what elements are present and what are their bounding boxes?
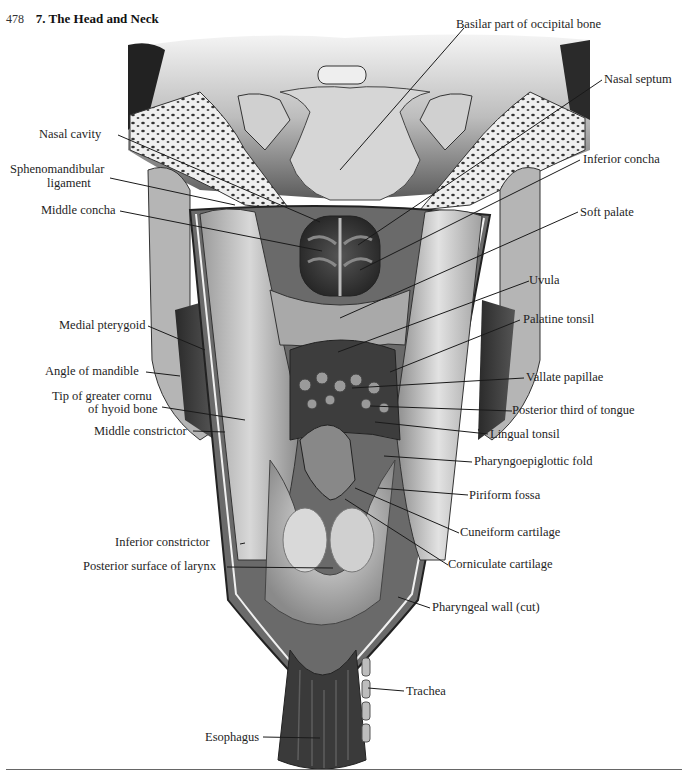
label-vallate-papillae: Vallate papillae xyxy=(526,371,603,384)
tongue-region xyxy=(290,340,400,440)
label-middle-constrictor: Middle constrictor xyxy=(94,425,187,438)
label-pharyngoepiglottic-fold: Pharyngoepiglottic fold xyxy=(474,455,592,468)
label-lingual-tonsil: Lingual tonsil xyxy=(490,428,560,441)
label-posterior-surface-of-larynx: Posterior surface of larynx xyxy=(83,560,216,573)
label-tip-greater-cornu-line2: of hyoid bone xyxy=(88,403,157,416)
label-nasal-septum: Nasal septum xyxy=(604,73,672,86)
label-basilar-part-of-occipital-bone: Basilar part of occipital bone xyxy=(456,18,601,31)
label-angle-of-mandible: Angle of mandible xyxy=(45,365,139,378)
label-corniculate-cartilage: Corniculate cartilage xyxy=(448,558,552,571)
label-nasal-cavity: Nasal cavity xyxy=(39,128,101,141)
label-piriform-fossa: Piriform fossa xyxy=(469,489,540,502)
label-middle-concha: Middle concha xyxy=(41,204,116,217)
label-medial-pterygoid: Medial pterygoid xyxy=(59,319,145,332)
label-soft-palate: Soft palate xyxy=(580,206,634,219)
label-cuneiform-cartilage: Cuneiform cartilage xyxy=(460,526,560,539)
label-palatine-tonsil: Palatine tonsil xyxy=(523,313,594,326)
label-esophagus: Esophagus xyxy=(205,731,259,744)
label-inferior-constrictor: Inferior constrictor xyxy=(115,536,210,549)
label-pharyngeal-wall-cut: Pharyngeal wall (cut) xyxy=(432,601,540,614)
label-uvula: Uvula xyxy=(529,274,560,287)
nasal-cavity-region xyxy=(300,216,380,296)
label-posterior-third-of-tongue: Posterior third of tongue xyxy=(512,404,635,417)
label-sphenomandibular-line1: Sphenomandibular xyxy=(10,163,104,176)
bottom-rule xyxy=(6,769,682,770)
label-trachea: Trachea xyxy=(406,685,446,698)
label-inferior-concha: Inferior concha xyxy=(583,153,660,166)
label-sphenomandibular-line2: ligament xyxy=(47,177,91,190)
